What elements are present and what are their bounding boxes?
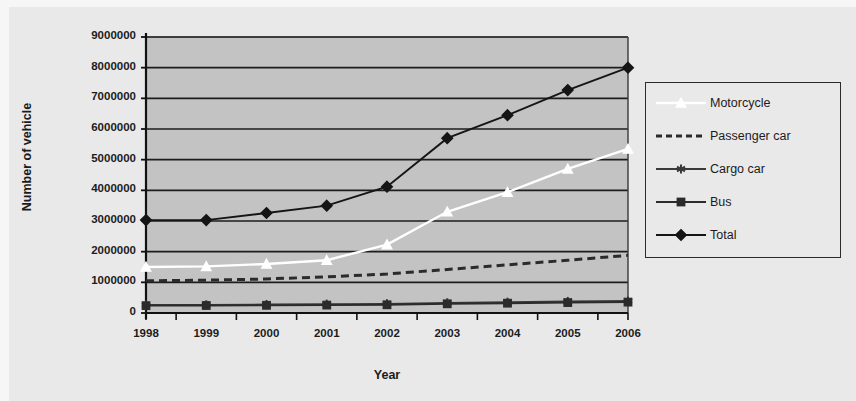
legend-item-cargo-car[interactable]: Cargo car xyxy=(654,155,765,183)
legend-label: Passenger car xyxy=(708,129,791,143)
legend-item-total[interactable]: Total xyxy=(654,221,736,249)
legend-label: Bus xyxy=(708,195,732,209)
data-point xyxy=(142,302,149,309)
legend-item-motorcycle[interactable]: Motorcycle xyxy=(654,89,770,117)
data-point xyxy=(323,301,330,308)
data-point xyxy=(383,301,390,308)
data-point xyxy=(504,300,511,307)
data-point xyxy=(263,302,270,309)
plot-area-background xyxy=(146,37,628,313)
data-point xyxy=(444,300,451,307)
legend-item-bus[interactable]: Bus xyxy=(654,188,732,216)
legend-label: Cargo car xyxy=(708,162,765,176)
white-line-triangle-marker-icon xyxy=(654,92,708,114)
legend-label: Total xyxy=(708,228,736,242)
legend-marker xyxy=(676,230,686,240)
legend-label: Motorcycle xyxy=(708,96,770,110)
data-point xyxy=(564,299,571,306)
legend-item-passenger-car[interactable]: Passenger car xyxy=(654,122,791,150)
plot-background-layer xyxy=(146,37,628,313)
line-square-marker-icon xyxy=(654,191,708,213)
legend-marker xyxy=(677,198,684,205)
line-asterisk-marker-icon xyxy=(654,158,708,180)
data-point xyxy=(203,302,210,309)
data-point xyxy=(624,299,631,306)
chart-figure: Number of vehicle Year 90000008000000700… xyxy=(0,0,856,401)
line-diamond-marker-icon xyxy=(654,224,708,246)
dashed-line-icon xyxy=(654,125,708,147)
chart-legend: MotorcyclePassenger carCargo carBusTotal xyxy=(645,82,841,258)
